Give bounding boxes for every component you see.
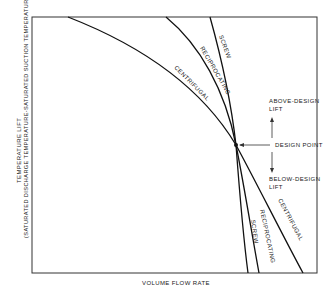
y-axis-label-2: (SATURATED DISCHARGE TEMPERATURE-SATURAT… xyxy=(23,0,29,238)
centrifugal-label-lower: CENTRIFUGAL xyxy=(277,198,304,242)
compressor-lift-diagram: ABOVE-DESIGN LIFT DESIGN POINT BELOW-DES… xyxy=(0,0,332,290)
arrow-down-icon xyxy=(270,168,274,173)
below-design-label-2: LIFT xyxy=(269,184,283,190)
y-axis-label-1: TEMPERATURE LIFT xyxy=(16,118,22,183)
design-point-marker xyxy=(234,143,238,147)
design-point-label: DESIGN POINT xyxy=(275,142,323,148)
x-axis-label: VOLUME FLOW RATE xyxy=(142,280,210,286)
below-design-label-1: BELOW-DESIGN xyxy=(269,176,320,182)
centrifugal-label-upper: CENTRIFUGAL xyxy=(173,64,210,101)
above-design-label-2: LIFT xyxy=(269,106,283,112)
arrow-head-left-icon xyxy=(239,143,244,147)
above-design-label-1: ABOVE-DESIGN xyxy=(269,98,319,104)
arrow-up-icon xyxy=(270,117,274,122)
